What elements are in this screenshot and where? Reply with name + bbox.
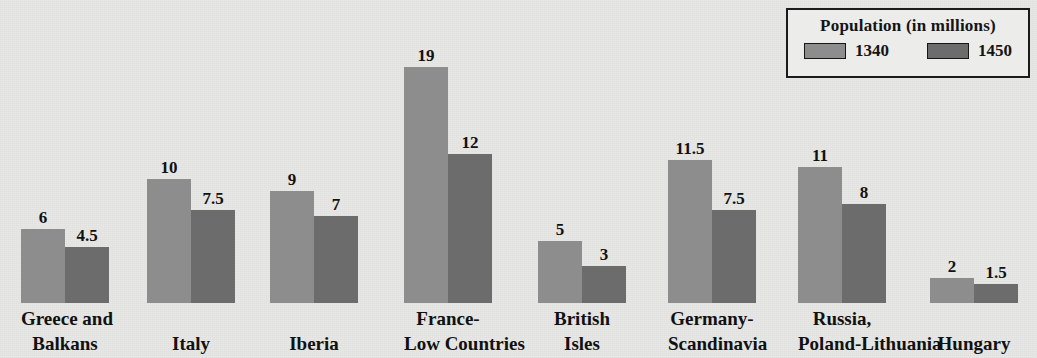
bar-rect[interactable] <box>712 210 756 303</box>
bar-rect[interactable] <box>404 67 448 303</box>
bar-pair: 21.5 <box>930 278 1018 303</box>
bar-rect[interactable] <box>930 278 974 303</box>
bar-group: 64.5Greece andBalkans <box>21 0 109 358</box>
bar-rect[interactable] <box>314 216 358 303</box>
bar-1450[interactable]: 7.5 <box>712 210 756 303</box>
bar-1340[interactable]: 2 <box>930 278 974 303</box>
bar-value-label: 19 <box>404 47 448 64</box>
bar-rect[interactable] <box>191 210 235 303</box>
category-label-line: Greece and <box>21 306 109 331</box>
bar-rect[interactable] <box>21 229 65 303</box>
bar-1450[interactable]: 8 <box>842 204 886 303</box>
bar-value-label: 5 <box>538 221 582 238</box>
legend-item-1340: 1340 <box>804 42 889 59</box>
legend-item-label: 1340 <box>855 42 889 59</box>
category-label: Germany-Scandinavia <box>668 306 756 356</box>
bar-1340[interactable]: 6 <box>21 229 65 303</box>
bar-group: 97Iberia <box>270 0 358 358</box>
category-label-line: France- <box>404 306 492 331</box>
bar-1340[interactable]: 11 <box>798 167 842 303</box>
bar-pair: 64.5 <box>21 229 109 303</box>
bar-1340[interactable]: 9 <box>270 191 314 303</box>
bar-1450[interactable]: 7.5 <box>191 210 235 303</box>
legend-item-label: 1450 <box>978 42 1012 59</box>
bar-rect[interactable] <box>448 154 492 303</box>
category-label: BritishIsles <box>538 306 626 356</box>
bar-value-label: 3 <box>582 246 626 263</box>
category-label: Russia,Poland-Lithuania <box>798 306 886 356</box>
bar-pair: 1912 <box>404 67 492 303</box>
category-label-line: British <box>538 306 626 331</box>
category-label-line: Russia, <box>798 306 886 331</box>
bar-pair: 107.5 <box>147 179 235 303</box>
category-label-line: Poland-Lithuania <box>798 331 886 356</box>
category-label-line: Germany- <box>668 306 756 331</box>
category-label: France-Low Countries <box>404 306 492 356</box>
bar-rect[interactable] <box>65 247 109 303</box>
category-label: Hungary <box>930 331 1018 356</box>
bar-1450[interactable]: 7 <box>314 216 358 303</box>
bar-value-label: 7 <box>314 196 358 213</box>
category-label: Italy <box>147 331 235 356</box>
legend-swatch-icon <box>927 43 969 59</box>
chart-legend: Population (in millions) 1340 1450 <box>786 8 1030 78</box>
category-label-line: Hungary <box>930 331 1018 356</box>
category-label-line: Scandinavia <box>668 331 756 356</box>
bar-group: 107.5Italy <box>147 0 235 358</box>
bar-value-label: 6 <box>21 209 65 226</box>
bar-value-label: 9 <box>270 171 314 188</box>
legend-swatch-icon <box>804 43 846 59</box>
bar-group: 53BritishIsles <box>538 0 626 358</box>
bar-value-label: 11 <box>798 147 842 164</box>
bar-rect[interactable] <box>798 167 842 303</box>
category-label-line: Italy <box>147 331 235 356</box>
legend-items: 1340 1450 <box>798 38 1018 59</box>
bar-value-label: 10 <box>147 159 191 176</box>
bar-value-label: 12 <box>448 134 492 151</box>
bar-rect[interactable] <box>270 191 314 303</box>
bar-pair: 11.57.5 <box>668 160 756 303</box>
bar-1340[interactable]: 11.5 <box>668 160 712 303</box>
bar-group: 1912France-Low Countries <box>404 0 492 358</box>
legend-title: Population (in millions) <box>798 14 1018 38</box>
bar-1450[interactable]: 1.5 <box>974 284 1018 303</box>
bar-pair: 97 <box>270 191 358 303</box>
bar-pair: 53 <box>538 241 626 303</box>
population-bar-chart: 64.5Greece andBalkans107.5Italy97Iberia1… <box>0 0 1037 358</box>
bar-1450[interactable]: 4.5 <box>65 247 109 303</box>
category-label-line: Iberia <box>270 331 358 356</box>
bar-value-label: 7.5 <box>191 190 235 207</box>
bar-group: 11.57.5Germany-Scandinavia <box>668 0 756 358</box>
category-label-line: Balkans <box>21 331 109 356</box>
category-label: Iberia <box>270 331 358 356</box>
bar-1340[interactable]: 10 <box>147 179 191 303</box>
category-label: Greece andBalkans <box>21 306 109 356</box>
bar-pair: 118 <box>798 167 886 303</box>
bar-value-label: 8 <box>842 184 886 201</box>
bar-1450[interactable]: 12 <box>448 154 492 303</box>
bar-rect[interactable] <box>842 204 886 303</box>
bar-rect[interactable] <box>582 266 626 303</box>
bar-rect[interactable] <box>147 179 191 303</box>
bar-rect[interactable] <box>668 160 712 303</box>
bar-value-label: 7.5 <box>712 190 756 207</box>
category-label-line: Low Countries <box>404 331 492 356</box>
bar-value-label: 4.5 <box>65 227 109 244</box>
category-label-line: Isles <box>538 331 626 356</box>
bar-value-label: 2 <box>930 258 974 275</box>
bar-1340[interactable]: 19 <box>404 67 448 303</box>
bar-1450[interactable]: 3 <box>582 266 626 303</box>
bar-value-label: 1.5 <box>974 264 1018 281</box>
legend-item-1450: 1450 <box>927 42 1012 59</box>
bar-rect[interactable] <box>974 284 1018 303</box>
bar-1340[interactable]: 5 <box>538 241 582 303</box>
bar-value-label: 11.5 <box>668 140 712 157</box>
bar-rect[interactable] <box>538 241 582 303</box>
